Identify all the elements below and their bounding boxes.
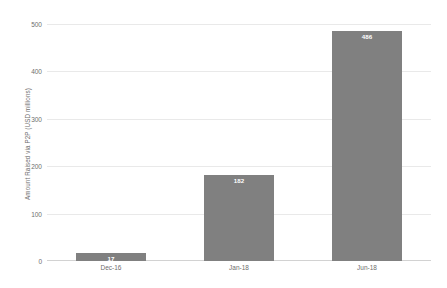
y-tick-label: 100 bbox=[8, 210, 42, 217]
bar-group[interactable]: 182 bbox=[204, 24, 274, 261]
bar-chart: Amount Raised via P2P (USD millions) 010… bbox=[0, 0, 447, 288]
bar-group[interactable]: 17 bbox=[76, 24, 146, 261]
x-tick-label: Jan-18 bbox=[175, 264, 303, 271]
y-axis-tick-labels: 0100200300400500 bbox=[0, 24, 42, 261]
x-axis-tick-labels: Dec-16Jan-18Jun-18 bbox=[47, 264, 431, 278]
bars-layer: 17182486 bbox=[47, 24, 431, 261]
bar-value-label: 486 bbox=[332, 33, 402, 40]
bar[interactable] bbox=[204, 175, 274, 261]
bar-value-label: 182 bbox=[204, 177, 274, 184]
y-tick-label: 0 bbox=[8, 258, 42, 265]
plot-area: 17182486 bbox=[47, 24, 431, 261]
bar[interactable] bbox=[332, 31, 402, 261]
y-tick-label: 300 bbox=[8, 115, 42, 122]
bar-value-label: 17 bbox=[76, 255, 146, 262]
y-tick-label: 200 bbox=[8, 163, 42, 170]
y-tick-label: 400 bbox=[8, 68, 42, 75]
bar-group[interactable]: 486 bbox=[332, 24, 402, 261]
x-tick-label: Jun-18 bbox=[303, 264, 431, 271]
x-tick-label: Dec-16 bbox=[47, 264, 175, 271]
y-tick-label: 500 bbox=[8, 21, 42, 28]
